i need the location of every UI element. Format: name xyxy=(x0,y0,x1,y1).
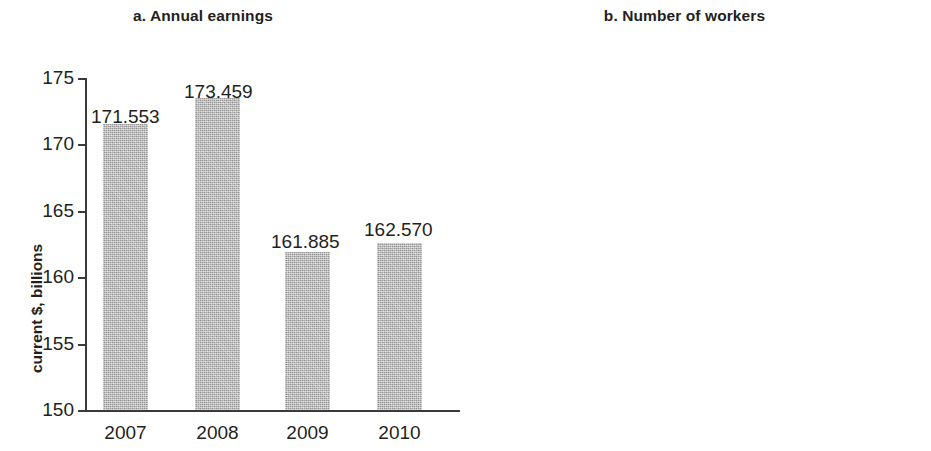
panel-a-plot-area: 175 170 165 160 155 150 171.553 173.459 … xyxy=(85,78,460,410)
bar-label-2010: 162.570 xyxy=(364,219,433,241)
panel-a-x-axis-line xyxy=(85,410,460,412)
panel-a-ytick-mark-160 xyxy=(78,277,85,279)
panel-b-number-of-workers: b. Number of workers millions 7.0 6.5 6.… xyxy=(466,0,931,451)
bar-label-2007: 171.553 xyxy=(91,106,160,128)
xtick-label-2007: 2007 xyxy=(93,422,158,444)
bar-2010 xyxy=(377,243,422,410)
panel-a-ytick-label-150: 150 xyxy=(42,399,74,421)
panel-a-ytick-label-175: 175 xyxy=(42,67,74,89)
panel-a-y-axis-line xyxy=(85,78,87,410)
panel-a-ytick-mark-155 xyxy=(78,344,85,346)
panel-b-title: b. Number of workers xyxy=(452,7,917,25)
panel-a-ytick-label-155: 155 xyxy=(42,332,74,354)
xtick-label-2010: 2010 xyxy=(367,422,432,444)
bar-label-2008: 173.459 xyxy=(184,81,253,103)
bar-2008 xyxy=(195,98,240,410)
panel-a-ytick-mark-165 xyxy=(78,211,85,213)
panel-a-ytick-mark-175 xyxy=(78,78,85,80)
xtick-label-2009: 2009 xyxy=(275,422,340,444)
two-panel-bar-figure: a. Annual earnings current $, billions 1… xyxy=(0,0,931,451)
panel-a-ytick-label-170: 170 xyxy=(42,133,74,155)
panel-a-ytick-mark-170 xyxy=(78,144,85,146)
panel-a-annual-earnings: a. Annual earnings current $, billions 1… xyxy=(0,0,466,451)
panel-a-ytick-label-160: 160 xyxy=(42,266,74,288)
panel-a-ytick-mark-150 xyxy=(78,410,85,412)
bar-2007 xyxy=(103,124,148,410)
bar-2009 xyxy=(285,252,330,410)
panel-a-title: a. Annual earnings xyxy=(0,7,436,25)
panel-a-ytick-label-165: 165 xyxy=(42,199,74,221)
bar-label-2009: 161.885 xyxy=(271,231,340,253)
xtick-label-2008: 2008 xyxy=(185,422,250,444)
